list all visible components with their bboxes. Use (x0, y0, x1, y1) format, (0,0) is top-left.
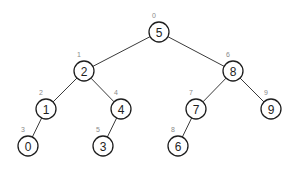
tree-edge (53, 78, 77, 102)
node-value: 8 (230, 65, 237, 79)
tree-edge (107, 118, 116, 137)
tree-node-1: 12 (36, 89, 56, 119)
tree-node-7: 77 (186, 89, 206, 119)
node-value: 3 (100, 140, 107, 154)
node-value: 5 (156, 26, 163, 40)
tree-edge (240, 78, 264, 102)
binary-tree-diagram: 50211203443586776899 (0, 0, 291, 172)
tree-nodes: 50211203443586776899 (18, 12, 281, 156)
tree-node-5: 50 (149, 12, 169, 42)
tree-node-9: 99 (261, 89, 281, 119)
node-value: 1 (43, 103, 50, 117)
tree-node-8: 86 (223, 51, 243, 81)
node-index-label: 3 (21, 126, 25, 133)
node-value: 6 (175, 140, 182, 154)
node-index-label: 8 (171, 126, 175, 133)
node-index-label: 6 (226, 51, 230, 58)
node-index-label: 0 (152, 12, 156, 19)
tree-node-4: 44 (111, 89, 131, 119)
tree-edge (93, 37, 150, 67)
tree-edge (203, 78, 226, 102)
tree-edge (32, 118, 41, 137)
node-index-label: 9 (264, 89, 268, 96)
tree-edge (182, 118, 191, 137)
node-index-label: 1 (77, 51, 81, 58)
tree-node-2: 21 (74, 51, 94, 81)
node-index-label: 7 (189, 89, 193, 96)
tree-edge (168, 37, 224, 67)
node-value: 4 (118, 103, 125, 117)
node-index-label: 5 (96, 126, 100, 133)
tree-edge (91, 78, 114, 102)
node-value: 9 (268, 103, 275, 117)
node-index-label: 4 (114, 89, 118, 96)
node-value: 7 (193, 103, 200, 117)
node-index-label: 2 (39, 89, 43, 96)
node-value: 2 (81, 65, 88, 79)
node-value: 0 (25, 140, 32, 154)
